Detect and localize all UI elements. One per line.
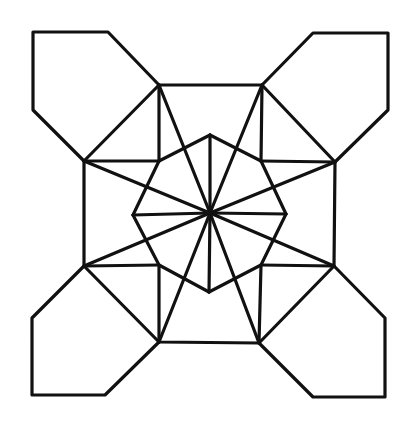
horizontal-edge	[84, 265, 159, 266]
star-tip-edge	[159, 265, 209, 292]
star-tip-edge	[133, 161, 159, 215]
star-octagon-diagram	[0, 0, 413, 421]
star-tip-edge	[159, 135, 210, 161]
axis-spoke	[210, 213, 286, 214]
axis-spoke	[209, 213, 210, 292]
corner-piece-top-left	[33, 32, 159, 161]
vertical-edge	[261, 85, 262, 161]
star-tip-edge	[209, 265, 261, 292]
corner-piece-bottom-left	[32, 266, 159, 395]
corner-piece-top-right	[262, 33, 388, 162]
star-tip-edge	[261, 214, 286, 265]
vertical-edge	[259, 265, 261, 343]
star-tip-edge	[133, 215, 159, 265]
horizontal-edge	[261, 265, 334, 266]
horizontal-edge	[261, 161, 335, 162]
star-tip-edge	[210, 135, 261, 161]
corner-piece-bottom-right	[259, 266, 385, 397]
star-tip-edge	[261, 161, 286, 214]
diagram-svg	[0, 0, 413, 421]
axis-spoke	[133, 213, 210, 215]
